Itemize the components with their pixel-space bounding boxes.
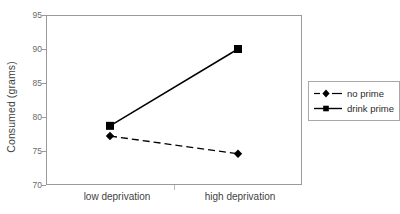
x-category-label-high-deprivation: high deprivation	[205, 191, 276, 202]
x-tick-mark	[174, 185, 175, 190]
legend-item-no-prime: no prime	[313, 86, 394, 101]
legend: no prime drink prime	[308, 81, 400, 121]
y-tick-label: 90	[22, 45, 42, 54]
line-chart: Consumed (grams) 95 90 85 80 75 70 low d…	[0, 0, 400, 214]
plot-area	[46, 15, 302, 185]
y-axis-title: Consumed (grams)	[0, 0, 22, 214]
legend-swatch-no-prime	[313, 87, 343, 100]
y-axis-tick-labels: 95 90 85 80 75 70	[22, 0, 42, 214]
y-tick-label: 75	[22, 147, 42, 156]
legend-label-drink-prime: drink prime	[347, 104, 394, 114]
legend-swatch-drink-prime	[313, 102, 343, 115]
y-tick-label: 95	[22, 11, 42, 20]
x-category-label-low-deprivation: low deprivation	[84, 191, 151, 202]
y-tick-label: 80	[22, 113, 42, 122]
legend-label-no-prime: no prime	[347, 89, 384, 99]
y-tick-label: 70	[22, 181, 42, 190]
y-tick-mark	[41, 185, 46, 186]
y-tick-label: 85	[22, 79, 42, 88]
legend-item-drink-prime: drink prime	[313, 101, 394, 116]
